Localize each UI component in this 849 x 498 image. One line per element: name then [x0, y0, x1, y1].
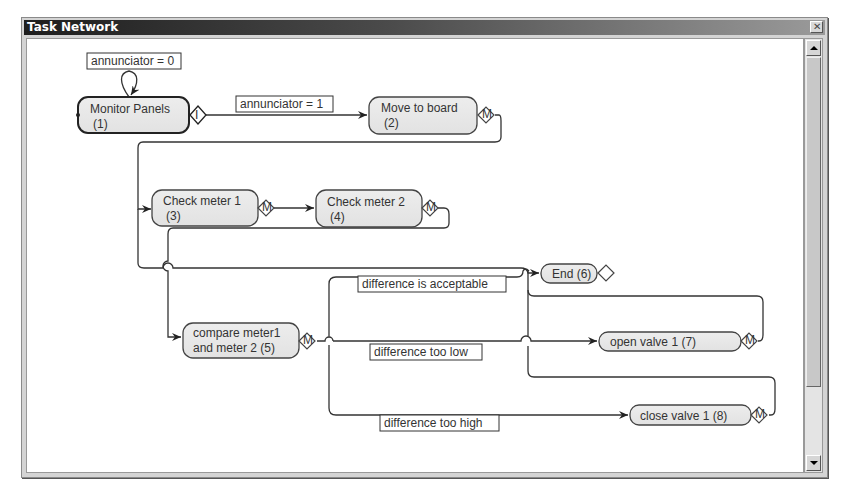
task-network-diagram: Monitor Panels (1) I Move to board (2) M…: [27, 39, 804, 473]
vertical-scrollbar[interactable]: [804, 38, 823, 473]
badge-letter: M: [303, 333, 313, 347]
scroll-up-button[interactable]: [806, 40, 821, 56]
title-bar[interactable]: Task Network ✕: [24, 20, 825, 35]
edge-label-acceptable: difference is acceptable: [358, 276, 506, 292]
node-label: End (6): [552, 267, 591, 281]
badge-letter: M: [755, 407, 765, 421]
node-check-meter-2[interactable]: Check meter 2 (4) M: [316, 190, 438, 227]
node-label: compare meter1: [193, 326, 281, 340]
node-end[interactable]: End (6): [541, 264, 614, 283]
edge-5-7: [333, 336, 597, 341]
badge-letter: M: [262, 200, 272, 214]
edge-label-too-low: difference too low: [370, 344, 482, 360]
edge-label-text: difference too low: [374, 345, 468, 359]
close-icon: ✕: [813, 21, 821, 32]
edge-label-text: difference is acceptable: [362, 277, 488, 291]
badge-letter: M: [426, 200, 436, 214]
edge-label-text: difference too high: [384, 416, 483, 430]
scroll-down-button[interactable]: [806, 455, 821, 471]
node-label: Move to board: [381, 101, 458, 115]
edge-label-annunciator-1: annunciator = 1: [236, 96, 333, 112]
edge-label-text: annunciator = 1: [240, 97, 323, 111]
edge-label-annunciator-0: annunciator = 0: [87, 53, 181, 69]
arrow-down-icon: [810, 461, 818, 465]
close-button[interactable]: ✕: [810, 21, 823, 33]
node-id: (2): [384, 116, 399, 130]
node-id: (4): [330, 210, 345, 224]
scroll-thumb[interactable]: [806, 57, 821, 387]
node-label: Check meter 2: [327, 195, 405, 209]
node-close-valve[interactable]: close valve 1 (8) M: [630, 405, 767, 425]
node-monitor-panels[interactable]: Monitor Panels (1) I: [76, 97, 206, 133]
node-move-to-board[interactable]: Move to board (2) M: [369, 97, 494, 134]
badge-letter: M: [745, 333, 755, 347]
node-label: close valve 1 (8): [640, 409, 727, 423]
node-check-meter-1[interactable]: Check meter 1 (3) M: [152, 190, 274, 226]
badge-letter: M: [482, 107, 492, 121]
node-compare-meters[interactable]: compare meter1 and meter 2 (5) M: [183, 323, 315, 358]
decision-diamond-icon: [598, 265, 614, 281]
node-label: Check meter 1: [163, 194, 241, 208]
node-open-valve[interactable]: open valve 1 (7) M: [599, 332, 757, 351]
node-label-2: and meter 2 (5): [193, 341, 275, 355]
badge-letter: I: [195, 108, 198, 122]
edge-1-self: [122, 71, 137, 97]
node-label: Monitor Panels: [90, 102, 170, 116]
edge-label-text: annunciator = 0: [91, 54, 174, 68]
window-title: Task Network: [27, 20, 118, 35]
node-id: (1): [93, 117, 108, 131]
node-label: open valve 1 (7): [610, 335, 696, 349]
diagram-canvas[interactable]: Monitor Panels (1) I Move to board (2) M…: [26, 38, 804, 473]
edge-label-too-high: difference too high: [380, 415, 499, 431]
arrow-up-icon: [810, 46, 818, 50]
node-id: (3): [166, 209, 181, 223]
task-network-window: Task Network ✕: [21, 17, 828, 478]
